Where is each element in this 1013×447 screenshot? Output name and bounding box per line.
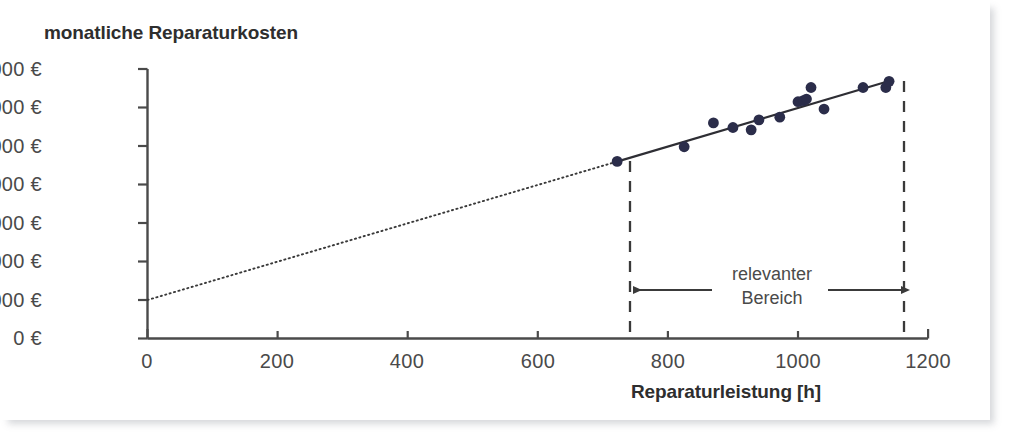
- scatter-point: [884, 76, 895, 87]
- y-tick-marks: [138, 69, 148, 339]
- scatter-point: [774, 112, 785, 123]
- chart-figure: monatliche Reparaturkosten 70.000 € 60.0…: [0, 0, 1013, 447]
- scatter-point: [858, 82, 869, 93]
- scatter-point: [746, 124, 757, 135]
- scatter-point: [819, 104, 830, 115]
- scatter-point: [801, 94, 812, 105]
- regression-line: [617, 81, 890, 162]
- extrapolated-trend-line: [148, 162, 618, 300]
- plot-canvas: [0, 0, 1013, 447]
- scatter-point: [806, 82, 817, 93]
- scatter-point: [679, 141, 690, 152]
- x-tick-marks: [148, 329, 929, 339]
- scatter-point: [754, 114, 765, 125]
- scatter-point: [612, 156, 623, 167]
- scatter-point: [728, 122, 739, 133]
- scatter-point: [708, 118, 719, 129]
